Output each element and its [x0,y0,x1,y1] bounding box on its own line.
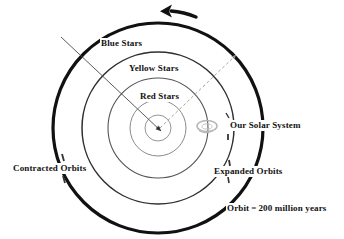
label-expanded-orbits: Expanded Orbits [213,166,284,177]
label-contracted-orbits: Contracted Orbits [12,163,87,174]
label-yellow-stars: Yellow Stars [128,63,180,74]
galaxy-orbit-diagram: Blue Stars Yellow Stars Red Stars Our So… [0,0,344,239]
label-our-solar-system: Our Solar System [229,120,302,131]
expanded-orbits-leader-tick-lower [228,177,229,183]
our-solar-system-spiral-icon [197,120,217,132]
contracted-orbits-leader-tick [62,154,64,161]
label-red-stars: Red Stars [139,91,180,102]
solar-system-leader-tick [226,113,229,118]
label-blue-stars: Blue Stars [100,38,143,49]
label-orbit-period: Orbit = 200 million years [226,203,327,214]
orbit-direction-tail [171,11,196,17]
contracted-orbit-arrow [61,37,161,131]
